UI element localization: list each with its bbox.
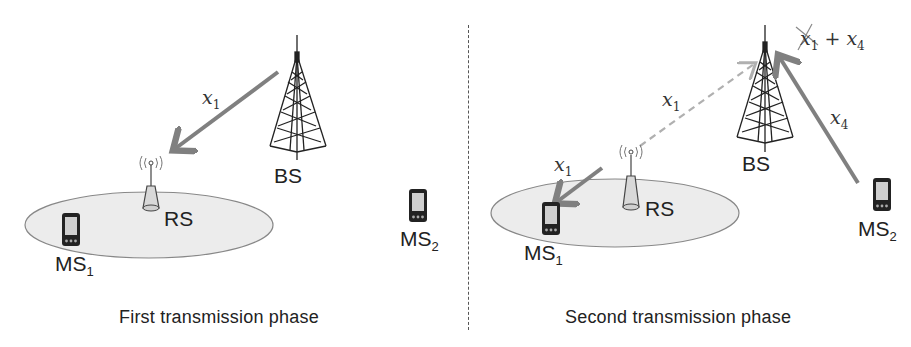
rs-label: RS <box>645 198 674 219</box>
signal-label-x4: x4 <box>830 108 848 131</box>
bs-tower-icon <box>737 25 793 152</box>
rs-relay-icon <box>620 145 642 210</box>
signal-label-x1-dashed: x1 <box>662 90 680 113</box>
received-signal-label: x1 + x4 <box>800 29 865 52</box>
ms1-label: MS1 <box>524 242 563 267</box>
first-phase-caption: First transmission phase <box>119 307 319 328</box>
first-phase-graphics <box>0 0 460 347</box>
bs-label: BS <box>742 153 770 174</box>
ms2-phone-icon <box>873 178 891 211</box>
link-bs-to-rs-arrow <box>176 72 278 148</box>
second-phase-graphics <box>470 0 911 347</box>
ms2-label: MS2 <box>858 218 897 243</box>
second-phase-panel: x1 + x4 x1 x1 x4 BS RS MS1 MS2 Second tr… <box>470 0 911 347</box>
bs-tower-icon <box>270 35 326 160</box>
bs-label: BS <box>274 165 302 186</box>
ms2-phone-icon <box>409 189 427 222</box>
signal-label-x1: x1 <box>202 88 220 111</box>
link-rs-to-bs-dashed-arrow <box>640 64 754 146</box>
ms2-label: MS2 <box>400 228 439 253</box>
ms1-phone-icon <box>542 202 560 235</box>
signal-label-x1-to-ms1: x1 <box>554 155 572 178</box>
rs-label: RS <box>164 208 193 229</box>
ms1-phone-icon <box>62 213 80 246</box>
second-phase-caption: Second transmission phase <box>565 307 791 328</box>
first-phase-panel: x1 BS RS MS1 MS2 First transmission phas… <box>0 0 460 347</box>
phase-divider <box>468 25 469 330</box>
ms1-label: MS1 <box>55 253 94 278</box>
rs-coverage-area <box>491 179 739 247</box>
